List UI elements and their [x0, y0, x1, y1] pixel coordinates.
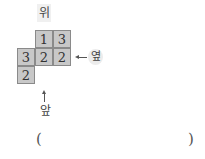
side-view-label: 옆: [88, 49, 103, 65]
grid-cell: 2: [53, 48, 71, 66]
open-paren: (: [36, 130, 42, 148]
close-paren: ): [188, 130, 194, 148]
grid-cell: 1: [35, 30, 53, 48]
front-arrow-icon: [44, 93, 45, 102]
grid-cell: 3: [17, 48, 35, 66]
grid-cell: 2: [35, 48, 53, 66]
front-view-label: 앞: [37, 104, 53, 118]
answer-field[interactable]: [48, 130, 184, 150]
grid-cell: 3: [53, 30, 71, 48]
top-view-label: 위: [37, 4, 51, 22]
side-arrow-icon: [78, 57, 87, 58]
grid-cell: 2: [17, 66, 35, 84]
